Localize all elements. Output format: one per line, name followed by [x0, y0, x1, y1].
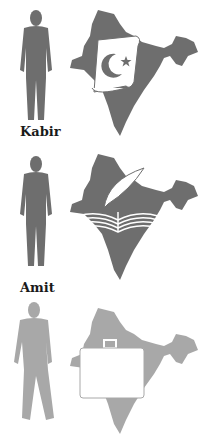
- person-silhouette-icon: [10, 300, 60, 424]
- india-map-icon: [64, 6, 204, 146]
- person-silhouette-icon: [16, 8, 56, 128]
- person-silhouette-icon: [16, 154, 56, 274]
- briefcase-icon: [80, 340, 144, 398]
- india-map-icon: [64, 150, 204, 290]
- india-map-icon: [64, 304, 204, 438]
- panel-amit: [0, 140, 206, 280]
- person-name-label: Kabir: [20, 124, 61, 139]
- panel-kabir: Kabir: [0, 0, 206, 140]
- scroll-icon: [92, 36, 140, 92]
- panel-business: [0, 280, 206, 420]
